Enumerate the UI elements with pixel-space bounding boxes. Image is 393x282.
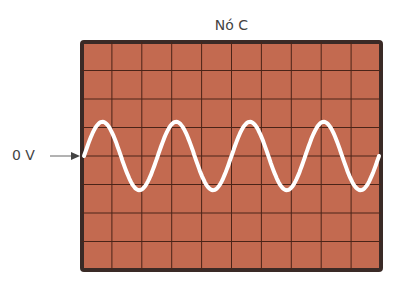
oscilloscope-diagram — [0, 0, 393, 282]
arrow-head-icon — [71, 152, 80, 160]
